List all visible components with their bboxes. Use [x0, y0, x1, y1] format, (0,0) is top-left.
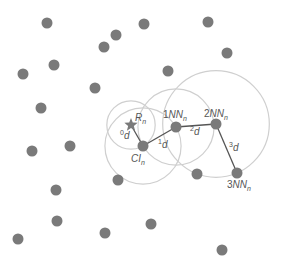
node-dot — [163, 66, 174, 77]
label-1nn: 1NNn — [163, 109, 187, 122]
label-3nn: 3NNn — [227, 179, 251, 192]
node-dot — [113, 175, 124, 186]
node-dot — [52, 216, 63, 227]
node-3nn — [232, 168, 243, 179]
node-dot — [27, 146, 38, 157]
node-dot — [222, 48, 233, 59]
node-dot — [90, 83, 101, 94]
node-dot — [13, 234, 24, 245]
node-2nn — [211, 119, 222, 130]
node-dot — [18, 69, 29, 80]
node-dot — [217, 245, 228, 256]
nearest-neighbor-diagram: RnCIn1NNn2NNn3NNn0d1d2d3d — [0, 0, 287, 271]
edge-label-1d: 1d — [158, 138, 168, 150]
edge-label-0d: 0d — [120, 129, 130, 141]
node-dot — [146, 219, 157, 230]
node-dot — [51, 185, 62, 196]
node-dot — [111, 30, 122, 41]
node-ci — [138, 141, 149, 152]
node-dot — [42, 18, 53, 29]
node-dot — [99, 42, 110, 53]
node-dot — [139, 19, 150, 30]
node-dot — [192, 169, 203, 180]
node-1nn — [171, 122, 182, 133]
node-dot — [49, 60, 60, 71]
node-dot — [36, 103, 47, 114]
edge-label-3d: 3d — [229, 141, 239, 153]
node-dot — [65, 141, 76, 152]
node-dot — [203, 17, 214, 28]
edge-label-2d: 2d — [190, 125, 200, 137]
label-ci: CIn — [131, 153, 145, 166]
node-dot — [100, 228, 111, 239]
background-nodes — [13, 17, 233, 256]
